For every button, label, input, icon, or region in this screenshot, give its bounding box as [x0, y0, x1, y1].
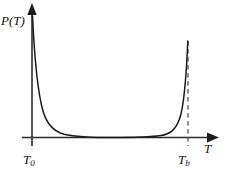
x-tick-label-t0-subscript: 0	[30, 158, 35, 168]
plot-figure: P(T) T T0 Tb	[0, 0, 226, 176]
y-axis-arrow-icon	[27, 3, 36, 15]
x-tick-label-tb: Tb	[178, 153, 190, 168]
x-axis-label: T	[204, 142, 211, 155]
chart-canvas	[0, 0, 226, 176]
probability-curve	[33, 16, 188, 138]
y-axis-label: P(T)	[1, 14, 25, 27]
x-tick-label-t0: T0	[23, 153, 35, 168]
x-tick-label-tb-subscript: b	[185, 158, 190, 168]
